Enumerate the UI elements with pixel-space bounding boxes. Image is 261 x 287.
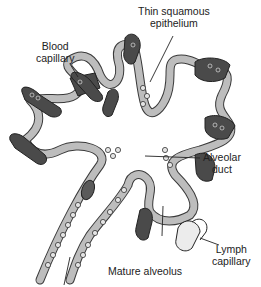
- label-alveolar-duct: Alveolar duct: [203, 151, 241, 175]
- label-thin-squamous-epithelium: Thin squamous epithelium: [138, 5, 210, 29]
- label-mature-alveolus: Mature alveolus: [108, 265, 182, 277]
- label-blood-capillary: Blood capillary: [36, 40, 75, 64]
- label-lymph-capillary: Lymph capillary: [212, 243, 251, 267]
- lymph-capillary: [176, 219, 207, 251]
